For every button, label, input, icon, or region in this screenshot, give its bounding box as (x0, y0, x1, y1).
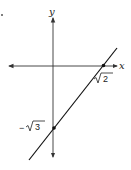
x-intercept-label: 2 (94, 73, 113, 84)
y-intercept-label: − 3 (19, 121, 45, 133)
y-intercept-sign: − (19, 123, 24, 133)
bullet-dot (1, 14, 3, 16)
y-axis-label: y (48, 6, 55, 17)
coordinate-plane: x y 2 − 3 (0, 0, 131, 170)
x-intercept-radicand: 2 (103, 74, 108, 84)
x-axis-label: x (119, 60, 125, 71)
x-intercept-point (102, 64, 106, 68)
y-intercept-radicand: 3 (35, 122, 40, 132)
y-intercept-point (52, 126, 56, 130)
